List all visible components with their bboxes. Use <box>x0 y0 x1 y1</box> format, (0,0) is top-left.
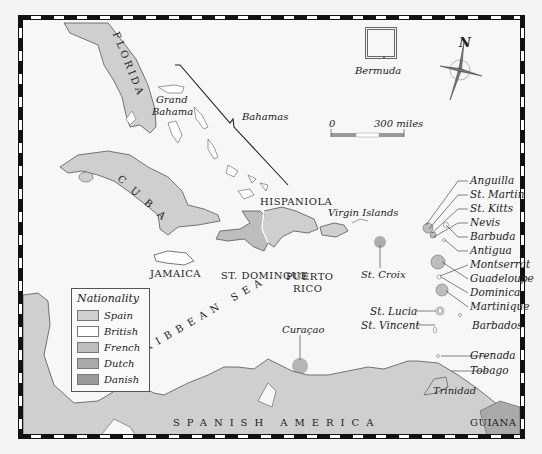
label-st-lucia: St. Lucia <box>370 305 417 317</box>
label-spanish-america: SPANISH AMERICA <box>173 417 380 428</box>
st-domingue-landmass <box>216 211 268 251</box>
label-grenada: Grenada <box>470 349 516 361</box>
label-hispaniola: HISPANIOLA <box>260 196 332 207</box>
scale-start-label: 0 <box>329 118 335 129</box>
nationality-legend: Nationality Spain British French Dutch D… <box>71 288 150 392</box>
label-jamaica: JAMAICA <box>150 268 201 279</box>
label-guadeloupe: Guadeloupe <box>470 272 534 284</box>
label-st-vincent: St. Vincent <box>361 319 420 331</box>
label-trinidad: Trinidad <box>433 385 476 396</box>
label-st-croix: St. Croix <box>361 269 406 280</box>
label-grand-bahama-1: Grand <box>156 94 188 105</box>
frame-border-bottom <box>18 434 525 439</box>
label-tobago: Tobago <box>470 364 509 376</box>
label-montserrat: Montserrat <box>470 258 530 270</box>
puerto-rico-landmass <box>320 223 348 237</box>
label-puerto-rico-1: PUERTO <box>286 271 334 282</box>
label-barbuda: Barbuda <box>470 230 515 242</box>
scale-end-label: 300 miles <box>374 118 423 129</box>
scale-bar <box>331 129 404 137</box>
legend-row-british: British <box>77 323 144 339</box>
label-anguilla: Anguilla <box>470 174 514 186</box>
legend-swatch-danish <box>77 374 99 385</box>
lesser-antilles-islands <box>423 223 462 378</box>
label-bahamas: Bahamas <box>242 111 288 122</box>
legend-label-french: French <box>104 342 140 353</box>
label-martinique: Martinique <box>470 300 529 312</box>
label-curacao: Curaçao <box>282 324 324 335</box>
label-guiana: GUIANA <box>470 417 517 428</box>
label-grand-bahama-2: Bahama <box>152 106 193 117</box>
frame-border-right <box>520 15 525 439</box>
label-antigua: Antigua <box>470 244 512 256</box>
compass-rose-icon <box>440 42 482 100</box>
label-virgin-islands: Virgin Islands <box>328 207 398 218</box>
label-barbados: Barbados <box>472 319 522 331</box>
legend-row-french: French <box>77 339 144 355</box>
legend-label-british: British <box>104 326 138 337</box>
legend-swatch-dutch <box>77 358 99 369</box>
legend-label-danish: Danish <box>104 374 139 385</box>
frame-border-left <box>18 15 23 439</box>
legend-row-danish: Danish <box>77 371 144 387</box>
legend-swatch-spain <box>77 310 99 321</box>
legend-swatch-french <box>77 342 99 353</box>
legend-title: Nationality <box>77 292 144 305</box>
santo-domingo-landmass <box>262 207 318 247</box>
legend-swatch-british <box>77 326 99 337</box>
legend-label-spain: Spain <box>104 310 133 321</box>
legend-row-dutch: Dutch <box>77 355 144 371</box>
jamaica-landmass <box>154 251 194 265</box>
bermuda-inset <box>365 27 397 59</box>
frame-border-top <box>18 15 525 20</box>
label-st-martin: St. Martin <box>470 188 524 200</box>
label-bermuda: Bermuda <box>355 65 401 76</box>
legend-label-dutch: Dutch <box>104 358 135 369</box>
legend-row-spain: Spain <box>77 307 144 323</box>
label-nevis: Nevis <box>470 216 500 228</box>
map-frame: FLORIDA CUBA HISPANIOLA ST. DOMINGUE JAM… <box>18 15 525 439</box>
label-st-kitts: St. Kitts <box>470 202 513 214</box>
label-dominica: Dominica <box>470 286 520 298</box>
compass-north-label: N <box>459 35 471 50</box>
florida-landmass <box>64 23 156 133</box>
label-puerto-rico-2: RICO <box>293 283 322 294</box>
